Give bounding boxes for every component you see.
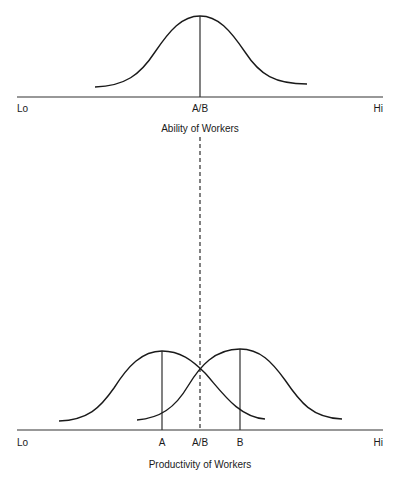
ability-distribution-curve [95,16,307,87]
ability-axis-hi-label: Hi [374,103,383,114]
ability-axis-lo-label: Lo [17,103,29,114]
top-panel: Lo A/B Hi Ability of Workers [17,16,383,134]
ability-axis-title: Ability of Workers [161,123,239,134]
productivity-axis-title: Productivity of Workers [149,459,252,470]
ability-ab-label: A/B [192,103,208,114]
bottom-panel: Lo A A/B B Hi Productivity of Workers [17,349,383,470]
productivity-axis-lo-label: Lo [17,437,29,448]
productivity-axis-hi-label: Hi [374,437,383,448]
diagram-canvas: Lo A/B Hi Ability of Workers Lo A A/B B … [0,0,401,486]
productivity-a-label: A [159,437,166,448]
productivity-ab-label: A/B [192,437,208,448]
productivity-b-label: B [237,437,244,448]
